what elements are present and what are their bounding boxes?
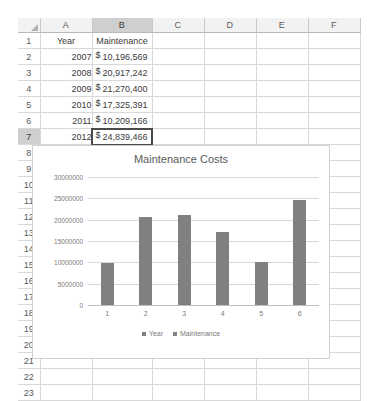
bar[interactable] [178,215,191,306]
cell-f6[interactable] [308,113,360,129]
cell-value: 10,209,166 [93,115,152,126]
column-header-f[interactable]: F [308,18,360,33]
bar-column [204,178,243,306]
table-row: 2 2007 $ 10,196,569 [18,49,360,65]
chart-bars [88,178,319,306]
cell-e7[interactable] [256,129,308,145]
x-tick-label: 1 [88,310,127,317]
y-tick-label: 30000000 [54,174,83,181]
cell-d3[interactable] [204,65,256,81]
cell-f4[interactable] [308,81,360,97]
bar-column [281,178,320,306]
bar[interactable] [216,232,229,306]
cell-d4[interactable] [204,81,256,97]
bar[interactable] [255,262,268,306]
currency-symbol: $ [96,50,101,60]
column-header-row: A B C D E F [18,18,360,33]
column-header-a[interactable]: A [40,18,92,33]
legend-item[interactable]: Year [142,330,163,337]
cell-f5[interactable] [308,97,360,113]
row-header-1[interactable]: 1 [18,33,40,49]
cell-e6[interactable] [256,113,308,129]
cell-b3[interactable]: $ 20,917,242 [92,65,152,81]
bar[interactable] [139,217,152,306]
cell-e23[interactable] [256,385,308,401]
cell-a23[interactable] [40,385,92,401]
cell-d7[interactable] [204,129,256,145]
cell-c4[interactable] [152,81,204,97]
table-row: 4 2009 $ 21,270,400 [18,81,360,97]
cell-e22[interactable] [256,369,308,385]
chart-title: Maintenance Costs [33,153,329,165]
cell-e3[interactable] [256,65,308,81]
cell-f7[interactable] [308,129,360,145]
cell-a1[interactable]: Year [40,33,92,49]
column-header-d[interactable]: D [204,18,256,33]
cell-b7-selected[interactable]: $ 24,839,466 [92,129,152,145]
cell-f2[interactable] [308,49,360,65]
cell-e2[interactable] [256,49,308,65]
cell-b6[interactable]: $ 10,209,166 [92,113,152,129]
cell-a7[interactable]: 2012 [40,129,92,145]
row-header-3[interactable]: 3 [18,65,40,81]
currency-symbol: $ [96,114,101,124]
cell-c22[interactable] [152,369,204,385]
row-header-6[interactable]: 6 [18,113,40,129]
cell-b5[interactable]: $ 17,325,391 [92,97,152,113]
row-header-5[interactable]: 5 [18,97,40,113]
cell-a22[interactable] [40,369,92,385]
table-row: 5 2010 $ 17,325,391 [18,97,360,113]
column-header-e[interactable]: E [256,18,308,33]
row-header-7[interactable]: 7 [18,129,40,145]
cell-a2[interactable]: 2007 [40,49,92,65]
bar[interactable] [101,263,114,307]
cell-b2[interactable]: $ 10,196,569 [92,49,152,65]
cell-d23[interactable] [204,385,256,401]
row-header-4[interactable]: 4 [18,81,40,97]
cell-e4[interactable] [256,81,308,97]
currency-symbol: $ [96,98,101,108]
cell-a5[interactable]: 2010 [40,97,92,113]
bar[interactable] [293,200,306,306]
cell-f23[interactable] [308,385,360,401]
cell-value: 24,839,466 [93,131,152,142]
cell-a4[interactable]: 2009 [40,81,92,97]
select-all-corner[interactable] [18,18,40,33]
row-header-23[interactable]: 23 [18,385,40,401]
legend-item[interactable]: Maintenance [173,330,220,337]
embedded-chart-object[interactable]: Maintenance Costs 0500000010000000150000… [32,145,330,359]
table-row: 6 2011 $ 10,209,166 [18,113,360,129]
cell-a3[interactable]: 2008 [40,65,92,81]
cell-c1[interactable] [152,33,204,49]
cell-e5[interactable] [256,97,308,113]
cell-c3[interactable] [152,65,204,81]
row-header-2[interactable]: 2 [18,49,40,65]
cell-d2[interactable] [204,49,256,65]
cell-b22[interactable] [92,369,152,385]
cell-a6[interactable]: 2011 [40,113,92,129]
cell-d1[interactable] [204,33,256,49]
cell-c7[interactable] [152,129,204,145]
cell-c23[interactable] [152,385,204,401]
cell-b4[interactable]: $ 21,270,400 [92,81,152,97]
column-header-c[interactable]: C [152,18,204,33]
x-tick-label: 2 [127,310,166,317]
cell-d5[interactable] [204,97,256,113]
legend-swatch-icon [173,332,177,336]
row-header-22[interactable]: 22 [18,369,40,385]
cell-c2[interactable] [152,49,204,65]
y-tick-label: 20000000 [54,216,83,223]
cell-b23[interactable] [92,385,152,401]
cell-f22[interactable] [308,369,360,385]
cell-b1[interactable]: Maintenance [92,33,152,49]
column-header-b[interactable]: B [92,18,152,33]
chart-x-axis-labels: 123456 [88,310,319,317]
cell-e1[interactable] [256,33,308,49]
cell-c6[interactable] [152,113,204,129]
cell-d6[interactable] [204,113,256,129]
cell-f3[interactable] [308,65,360,81]
cell-f1[interactable] [308,33,360,49]
cell-c5[interactable] [152,97,204,113]
bar-column [127,178,166,306]
cell-d22[interactable] [204,369,256,385]
